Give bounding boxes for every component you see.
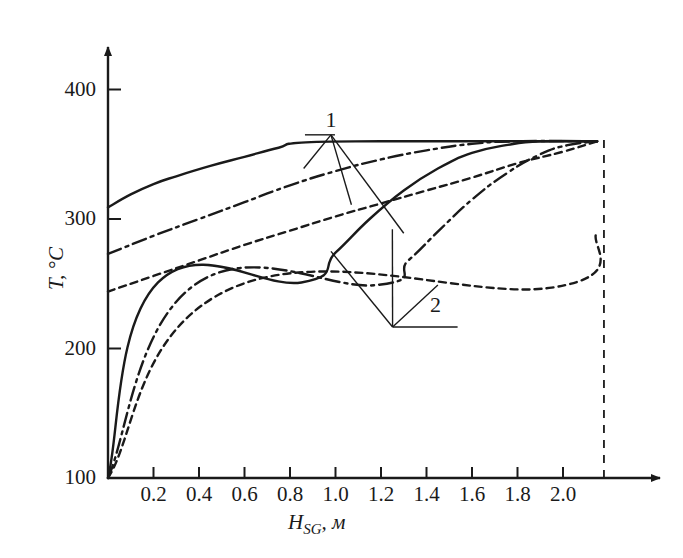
leader-line-1-2 [331,135,404,233]
x-tick-label: 0.6 [221,484,269,505]
y-tick-label: 400 [44,79,96,100]
x-tick-label: 1.0 [312,484,360,505]
y-tick-label: 300 [44,208,96,229]
x-tick-label: 0.8 [266,484,314,505]
x-tick-label: 1.6 [448,484,496,505]
chart-figure: T, °C HSG, м 1002003004000.20.40.60.81.0… [0,0,683,558]
x-tick-label: 0.2 [130,484,178,505]
data-series-group [108,141,601,478]
y-tick-label: 200 [44,338,96,359]
x-tick-label: 1.4 [403,484,451,505]
leader-line-1-0 [304,135,331,169]
plot-area [0,0,683,558]
series-group2-solid [108,141,597,478]
x-tick-label: 1.2 [357,484,405,505]
x-tick-label: 0.4 [175,484,223,505]
group-label-2: 2 [422,294,450,316]
series-group1-solid [108,141,597,207]
x-axis-title-main: H [288,510,303,534]
x-tick-label: 1.8 [494,484,542,505]
x-axis-title: HSG, м [288,512,345,537]
x-axis-ticks [154,467,564,478]
x-axis-title-unit: , м [322,510,346,534]
x-axis-title-subscript: SG [303,521,321,537]
y-axis-title: T, °C [46,247,67,290]
y-axis-ticks [108,90,121,349]
y-tick-label: 100 [44,467,96,488]
series-group2-dashdot [108,141,597,478]
leader-line-2-0 [331,251,393,327]
group-label-1: 1 [317,109,345,131]
leader-line-1-1 [331,135,351,205]
x-tick-label: 2.0 [539,484,587,505]
